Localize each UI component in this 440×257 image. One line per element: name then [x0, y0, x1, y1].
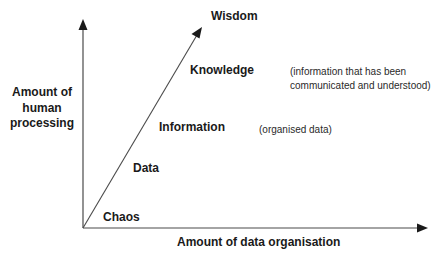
y-axis-label: Amount of human processing	[2, 85, 82, 132]
stage-information: Information	[159, 121, 225, 133]
knowledge-note-line2: communicated and understood)	[290, 79, 431, 92]
stage-knowledge: Knowledge	[190, 64, 254, 76]
stage-data: Data	[133, 162, 159, 174]
knowledge-note-line1: (information that has been	[290, 65, 406, 78]
progression-arrowhead-icon	[192, 27, 203, 39]
x-axis-label: Amount of data organisation	[177, 236, 340, 248]
dikw-diagram: Amount of human processing Amount of dat…	[0, 0, 440, 257]
x-axis-arrowhead-icon	[417, 224, 428, 233]
y-axis-arrowhead-icon	[79, 19, 88, 30]
stage-chaos: Chaos	[103, 211, 140, 223]
information-note: (organised data)	[259, 123, 332, 136]
stage-wisdom: Wisdom	[211, 10, 258, 22]
